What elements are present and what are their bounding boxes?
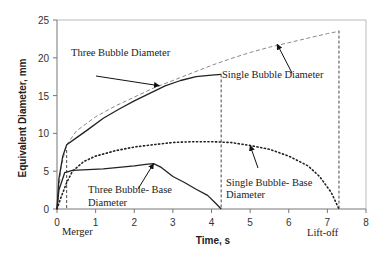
annotation-single-base-line2: Diameter xyxy=(226,189,266,200)
x-axis-title: Time, s xyxy=(196,235,231,246)
x-tick-label: 5 xyxy=(247,217,253,228)
annotation-three-bubble-diameter: Three Bubble Diameter xyxy=(71,47,171,58)
y-tick-label: 5 xyxy=(43,166,49,177)
annotation-three-base-line2: Diameter xyxy=(88,197,128,208)
y-axis: 0510152025 xyxy=(38,15,57,215)
y-tick-label: 20 xyxy=(38,53,50,64)
annotation-arrow xyxy=(96,76,159,86)
y-axis-title: Equivalent Diameter, mm xyxy=(17,58,28,177)
x-tick-label: 1 xyxy=(93,217,99,228)
x-axis: 012345678 xyxy=(54,209,369,228)
x-tick-label: 3 xyxy=(170,217,176,228)
y-tick-label: 10 xyxy=(38,128,50,139)
y-tick-label: 15 xyxy=(38,91,50,102)
x-tick-label: 0 xyxy=(54,217,60,228)
annotation-arrow xyxy=(250,145,258,168)
line-chart: 0510152025 012345678 Time, s Equivalent … xyxy=(0,0,390,259)
y-tick-label: 25 xyxy=(38,15,50,26)
x-tick-label: 8 xyxy=(363,217,369,228)
annotation-single-base-line1: Single Bubble- Base xyxy=(226,177,313,188)
annotation-three-base-line1: Three Bubble- Base xyxy=(88,184,172,195)
y-tick-label: 0 xyxy=(43,204,49,215)
annotation-single-bubble-diameter: Single Bubble Diameter xyxy=(222,69,324,80)
x-tick-label: 4 xyxy=(209,217,215,228)
x-tick-label: 6 xyxy=(286,217,292,228)
liftoff-label: Lift-off xyxy=(307,227,339,238)
merger-label: Merger xyxy=(62,226,93,237)
x-tick-label: 2 xyxy=(131,217,137,228)
